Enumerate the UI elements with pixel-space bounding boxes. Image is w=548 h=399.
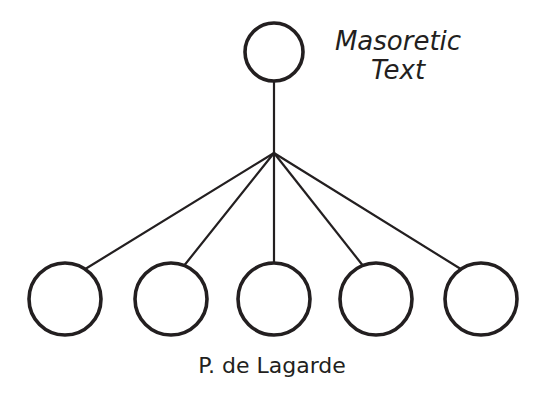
p-de-lagarde-label: P. de Lagarde — [198, 353, 346, 378]
labels-group: Masoretic Text P. de Lagarde — [198, 26, 461, 378]
edges-group — [82, 81, 464, 271]
edge-junction-to-leaf-4 — [274, 153, 364, 267]
leaf-node-2[interactable] — [135, 263, 207, 335]
masoretic-text-label-line1: Masoretic — [335, 26, 461, 56]
masoretic-text-label-line2: Text — [371, 55, 426, 85]
edge-junction-to-leaf-5 — [274, 153, 464, 271]
edge-junction-to-leaf-2 — [183, 153, 274, 267]
leaf-node-1[interactable] — [29, 263, 101, 335]
stemma-diagram: Masoretic Text P. de Lagarde — [0, 0, 548, 399]
stemma-canvas: Masoretic Text P. de Lagarde — [0, 0, 548, 399]
edge-junction-to-leaf-1 — [82, 153, 274, 271]
leaf-node-3[interactable] — [238, 263, 310, 335]
leaf-node-5[interactable] — [445, 263, 517, 335]
leaf-node-4[interactable] — [340, 263, 412, 335]
root-node[interactable] — [245, 23, 303, 81]
